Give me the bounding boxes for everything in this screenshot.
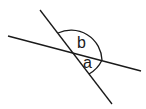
angle-a-label: a: [83, 54, 92, 71]
angle-b-label: b: [77, 34, 86, 51]
shallow-line: [8, 36, 141, 71]
diagram-canvas: b a: [0, 0, 146, 109]
angle-diagram: b a: [0, 0, 146, 109]
